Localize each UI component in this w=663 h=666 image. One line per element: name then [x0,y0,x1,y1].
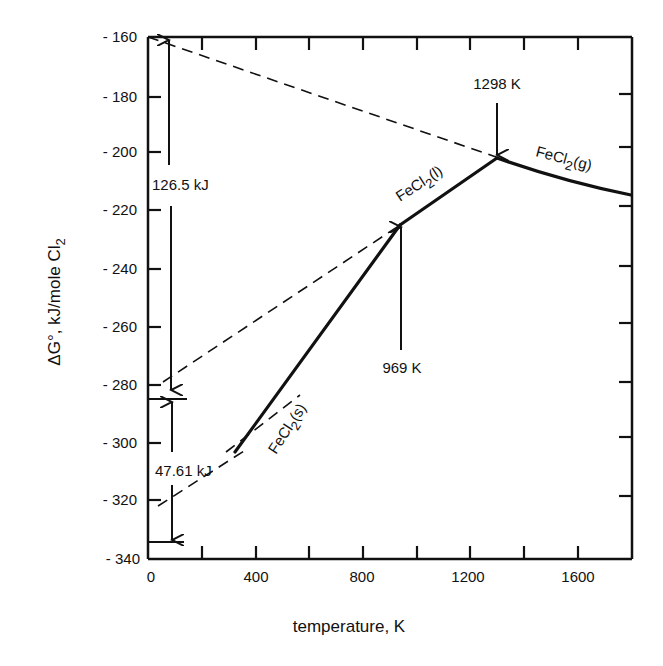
annotation-126kj: 126.5 kJ [148,40,209,399]
gas-extrapolation-line [148,37,496,157]
svg-text:- 160: - 160 [103,28,137,45]
svg-text:400: 400 [243,568,268,585]
line-label-solid: FeCl2(s) [264,400,313,459]
line-label-liquid: FeCl2(l) [392,162,448,209]
svg-text:969 K: 969 K [382,359,421,376]
annotation-47kj: 47.61 kJ [148,402,212,542]
svg-text:- 300: - 300 [103,434,137,451]
plot-frame [148,37,632,559]
liquid-extrapolation-line [163,225,400,382]
svg-text:- 340: - 340 [106,550,140,567]
svg-text:1200: 1200 [451,568,484,585]
svg-text:800: 800 [349,568,374,585]
svg-text:1298 K: 1298 K [473,75,521,92]
x-axis-ticks [202,37,578,559]
x-tick-labels: 0 400 800 1200 1600 [147,568,595,585]
svg-text:- 220: - 220 [103,201,137,218]
svg-text:FeCl2(s): FeCl2(s) [264,400,313,459]
svg-text:FeCl2(l): FeCl2(l) [392,162,448,209]
svg-text:- 320: - 320 [103,491,137,508]
ellingham-chart: - 160 - 180 - 200 - 220 - 240 - 260 - 28… [0,0,663,666]
dashed-extrapolations [148,37,496,506]
svg-text:- 260: - 260 [103,318,137,335]
svg-text:- 200: - 200 [103,143,137,160]
y-axis-title: ΔG°, kJ/mole Cl2 [45,238,68,365]
svg-text:- 180: - 180 [103,88,137,105]
annotation-969k: 969 K [382,227,421,376]
y-tick-labels: - 160 - 180 - 200 - 220 - 240 - 260 - 28… [103,28,140,567]
svg-text:- 280: - 280 [103,376,137,393]
annotation-1298k: 1298 K [473,75,521,155]
svg-text:126.5 kJ: 126.5 kJ [152,176,209,193]
fecl2-solid-line [235,225,400,452]
svg-text:ΔG°, kJ/mole Cl2: ΔG°, kJ/mole Cl2 [45,238,68,365]
svg-text:47.61 kJ: 47.61 kJ [155,462,212,479]
svg-text:- 240: - 240 [103,260,137,277]
svg-text:0: 0 [147,568,155,585]
x-axis-title: temperature, K [293,617,406,636]
svg-text:1600: 1600 [561,568,594,585]
